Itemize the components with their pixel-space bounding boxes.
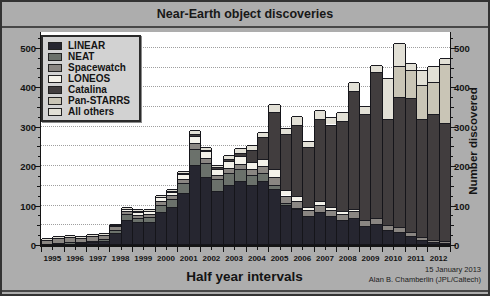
segment-LINEAR — [212, 191, 223, 244]
legend-label-LINEAR: LINEAR — [68, 40, 105, 51]
legend-label-Spacewatch: Spacewatch — [68, 62, 126, 73]
segment-LONEOS — [122, 209, 132, 212]
x-tick — [143, 247, 144, 250]
segment-All-others — [417, 70, 427, 85]
segment-Spacewatch — [65, 237, 75, 242]
x-year-label-2010: 2010 — [381, 254, 405, 263]
segment-NEAT — [235, 169, 246, 181]
segment-LINEAR — [110, 233, 121, 244]
y-tick-label-right: 0 — [454, 241, 480, 250]
segment-Spacewatch — [303, 210, 314, 216]
x-tick — [200, 247, 201, 252]
segment-All-others — [167, 189, 177, 191]
segment-All-others — [42, 238, 52, 240]
bar-2012-H2 — [439, 59, 451, 245]
x-tick — [325, 247, 326, 250]
segment-Catalina — [292, 125, 302, 196]
segment-NEAT — [87, 241, 98, 243]
x-year-label-2006: 2006 — [290, 254, 314, 263]
y-tick-right — [451, 176, 453, 177]
segment-Catalina — [224, 159, 234, 161]
legend-label-LONEOS: LONEOS — [68, 73, 110, 84]
segment-NEAT — [53, 243, 64, 244]
segment-All-others — [326, 117, 336, 124]
segment-LINEAR — [315, 212, 325, 244]
x-tick — [75, 247, 76, 250]
segment-LONEOS — [349, 209, 359, 211]
segment-LONEOS — [269, 169, 280, 177]
y-tick-right — [451, 97, 453, 98]
segment-LINEAR — [99, 241, 109, 244]
segment-All-others — [258, 132, 268, 138]
x-tick — [52, 247, 53, 250]
segment-LONEOS — [144, 211, 155, 214]
segment-Spacewatch — [224, 168, 234, 173]
y-tick-left — [38, 38, 40, 39]
segment-NEAT — [133, 218, 143, 223]
segment-Spacewatch — [247, 169, 257, 175]
segment-All-others — [212, 165, 223, 168]
segment-Spacewatch — [201, 158, 211, 163]
y-tick-label-left: 100 — [10, 202, 36, 211]
segment-Catalina — [303, 147, 314, 206]
legend-label-Pan-STARRS: Pan-STARRS — [68, 95, 130, 106]
legend-swatch-All-others — [48, 108, 62, 116]
segment-All-others — [292, 116, 302, 125]
segment-LINEAR — [224, 185, 234, 244]
chart-title: Near-Earth object discoveries — [2, 7, 488, 21]
segment-Spacewatch — [269, 177, 280, 185]
y-tick-left — [38, 58, 40, 59]
segment-Spacewatch — [42, 240, 52, 244]
segment-Spacewatch — [417, 237, 427, 240]
credit-author: Alan B. Chamberlin (JPL/Caltech) — [369, 275, 481, 285]
y-tick-right — [451, 196, 453, 197]
y-tick-right — [451, 137, 453, 138]
x-tick — [427, 247, 428, 252]
y-tick-right — [451, 107, 454, 108]
segment-LINEAR — [258, 181, 268, 244]
segment-NEAT — [178, 183, 189, 193]
segment-LINEAR — [406, 236, 416, 244]
x-tick — [166, 247, 167, 250]
segment-LINEAR — [269, 189, 280, 244]
y-tick-right — [451, 235, 453, 236]
segment-LONEOS — [167, 192, 177, 196]
segment-NEAT — [212, 179, 223, 191]
segment-All-others — [178, 171, 189, 173]
segment-NEAT — [65, 242, 75, 244]
y-tick-left — [38, 176, 40, 177]
segment-All-others — [133, 209, 143, 211]
segment-All-others — [406, 63, 416, 71]
segment-LINEAR — [394, 232, 405, 244]
segment-All-others — [65, 235, 75, 237]
segment-Spacewatch — [178, 179, 189, 183]
segment-LINEAR — [428, 242, 439, 244]
x-year-label-1996: 1996 — [63, 254, 87, 263]
y-tick-right — [451, 186, 454, 187]
segment-All-others — [440, 58, 450, 64]
x-year-label-2000: 2000 — [154, 254, 178, 263]
y-tick-right — [451, 77, 453, 78]
segment-Spacewatch — [315, 205, 325, 212]
segment-LONEOS — [201, 151, 211, 158]
segment-All-others — [156, 195, 166, 197]
y-tick-left — [37, 68, 40, 69]
segment-All-others — [337, 112, 348, 120]
y-tick-left — [38, 196, 40, 197]
segment-Spacewatch — [371, 218, 382, 224]
segment-All-others — [247, 145, 257, 150]
segment-All-others — [428, 66, 439, 83]
y-tick-left — [38, 215, 40, 216]
segment-Catalina — [417, 119, 427, 237]
x-tick — [155, 247, 156, 252]
legend-swatch-Spacewatch — [48, 64, 62, 72]
segment-NEAT — [76, 242, 86, 243]
segment-NEAT — [269, 185, 280, 189]
segment-LINEAR — [247, 185, 257, 244]
x-year-label-1998: 1998 — [109, 254, 133, 263]
x-tick — [359, 247, 360, 252]
segment-Spacewatch — [258, 166, 268, 173]
segment-Pan-STARRS — [440, 64, 450, 123]
y-tick-left — [38, 235, 40, 236]
y-tick-left — [38, 137, 40, 138]
